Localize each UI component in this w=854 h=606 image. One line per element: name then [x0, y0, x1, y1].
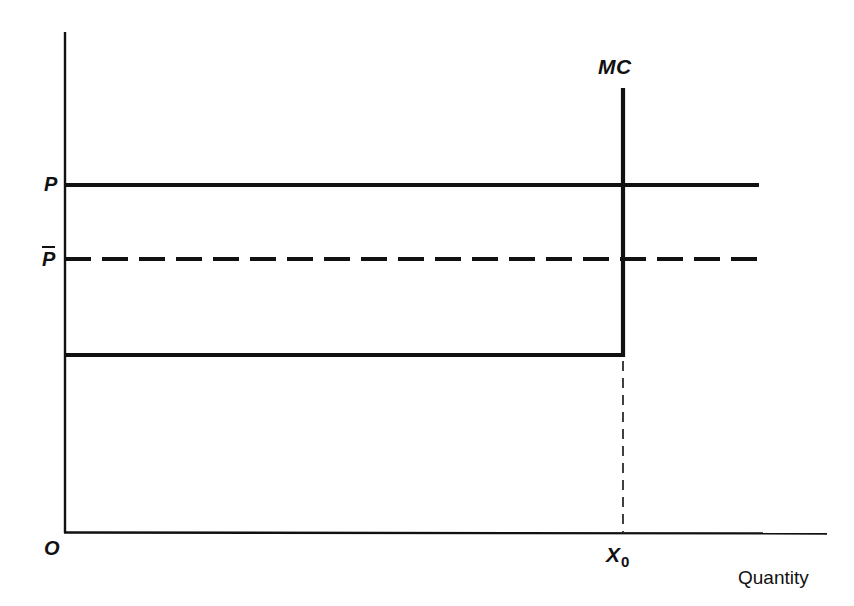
y-tick-label-pbar: P	[42, 246, 55, 269]
x-tick-label-x0: X0	[606, 544, 629, 569]
marginal-cost-curve	[65, 88, 623, 355]
x-tick-label-x0-subscript: 0	[621, 553, 629, 570]
y-tick-label-pbar-wrap: P	[42, 246, 55, 269]
mc-curve-label: MC	[598, 56, 632, 77]
origin-label: O	[44, 538, 60, 558]
x-tick-label-x0-base: X	[606, 543, 620, 566]
x-axis-title: Quantity	[738, 568, 809, 587]
x-axis-line	[64, 533, 827, 534]
chart-canvas	[0, 0, 854, 606]
y-tick-label-p: P	[44, 174, 57, 194]
economics-mc-price-chart: Price Quantity MC P P O X0	[0, 0, 854, 606]
